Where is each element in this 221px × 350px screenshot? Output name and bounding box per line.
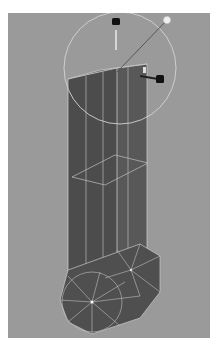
3d-viewport[interactable]	[8, 13, 210, 338]
scale-handle-icon[interactable]	[156, 75, 164, 83]
light-source-icon[interactable]	[164, 17, 171, 24]
scale-handle-icon[interactable]	[112, 18, 120, 25]
column-mesh[interactable]	[60, 64, 160, 334]
